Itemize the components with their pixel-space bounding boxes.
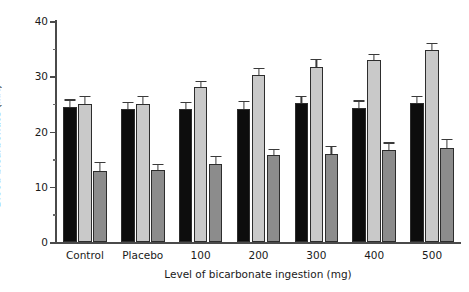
bar-light-gray-series bbox=[194, 87, 208, 242]
plot-area bbox=[56, 21, 461, 242]
bar-column bbox=[93, 21, 107, 242]
error-bar-cap bbox=[354, 100, 365, 101]
x-tick-label: 400 bbox=[364, 249, 384, 261]
bar-column bbox=[310, 21, 324, 242]
x-tick-label: 200 bbox=[248, 249, 268, 261]
bar-column bbox=[382, 21, 396, 242]
bar-column bbox=[63, 21, 77, 242]
error-bar-stem bbox=[200, 82, 201, 88]
y-tick-label: 10 bbox=[35, 181, 48, 193]
y-tick-label: 40 bbox=[35, 15, 48, 27]
error-bar-stem bbox=[431, 44, 432, 50]
bar-column bbox=[352, 21, 366, 242]
bar-column bbox=[237, 21, 251, 242]
bar-black-series bbox=[410, 103, 424, 242]
error-bar-stem bbox=[157, 165, 158, 170]
error-bar-cap bbox=[412, 96, 423, 97]
bar-column bbox=[410, 21, 424, 242]
error-bar-stem bbox=[243, 102, 244, 109]
error-bar-cap bbox=[210, 156, 221, 157]
error-bar-cap bbox=[238, 101, 249, 102]
error-bar-cap bbox=[94, 162, 105, 163]
error-bar-cap bbox=[137, 96, 148, 97]
bar-black-series bbox=[63, 107, 77, 242]
bar-medium-gray-series bbox=[209, 164, 223, 242]
bar-column bbox=[325, 21, 339, 242]
error-bar-cap bbox=[64, 99, 75, 100]
bar-medium-gray-series bbox=[382, 150, 396, 242]
bar-column bbox=[121, 21, 135, 242]
error-bar-stem bbox=[359, 102, 360, 108]
x-axis-line bbox=[55, 242, 461, 244]
error-bar-stem bbox=[127, 103, 128, 109]
error-bar-cap bbox=[369, 54, 380, 55]
bar-column bbox=[209, 21, 223, 242]
bar-black-series bbox=[352, 108, 366, 242]
bar-column bbox=[78, 21, 92, 242]
bar-group bbox=[295, 21, 339, 242]
x-tick-label: Control bbox=[66, 249, 104, 261]
x-tick-label: 300 bbox=[306, 249, 326, 261]
bar-black-series bbox=[237, 109, 251, 242]
error-bar-cap bbox=[268, 149, 279, 150]
bar-black-series bbox=[121, 109, 135, 242]
error-bar-cap bbox=[326, 146, 337, 147]
error-bar-cap bbox=[79, 96, 90, 97]
bar-column bbox=[367, 21, 381, 242]
bar-light-gray-series bbox=[367, 60, 381, 242]
bar-chart-figure: Blood bicarbonate (mM) 010203040 Control… bbox=[0, 0, 469, 292]
error-bar-cap bbox=[311, 59, 322, 60]
error-bar-stem bbox=[215, 157, 216, 164]
bar-column bbox=[440, 21, 454, 242]
bar-medium-gray-series bbox=[151, 170, 165, 242]
bar-column bbox=[179, 21, 193, 242]
y-axis-title: Blood bicarbonate (mM) bbox=[0, 85, 2, 208]
y-tick-label: 0 bbox=[41, 236, 48, 248]
bar-group bbox=[121, 21, 165, 242]
bar-medium-gray-series bbox=[267, 155, 281, 242]
y-tick-label: 20 bbox=[35, 126, 48, 138]
error-bar-stem bbox=[301, 97, 302, 103]
bar-medium-gray-series bbox=[93, 171, 107, 242]
bar-groups bbox=[56, 21, 461, 242]
bar-group bbox=[352, 21, 396, 242]
x-tick-label: 100 bbox=[191, 249, 211, 261]
bar-column bbox=[194, 21, 208, 242]
error-bar-stem bbox=[142, 97, 143, 104]
error-bar-stem bbox=[99, 163, 100, 171]
error-bar-stem bbox=[331, 147, 332, 154]
bar-column bbox=[252, 21, 266, 242]
bar-group bbox=[237, 21, 281, 242]
error-bar-cap bbox=[195, 81, 206, 82]
bar-group bbox=[410, 21, 454, 242]
x-axis-title: Level of bicarbonate ingestion (mg) bbox=[164, 268, 351, 280]
error-bar-cap bbox=[384, 142, 395, 143]
error-bar-cap bbox=[253, 68, 264, 69]
error-bar-cap bbox=[180, 102, 191, 103]
bar-light-gray-series bbox=[252, 75, 266, 242]
error-bar-stem bbox=[416, 97, 417, 103]
x-tick-label: Placebo bbox=[122, 249, 163, 261]
bar-light-gray-series bbox=[136, 104, 150, 242]
error-bar-stem bbox=[185, 103, 186, 109]
bar-column bbox=[267, 21, 281, 242]
bar-light-gray-series bbox=[310, 67, 324, 242]
bar-black-series bbox=[179, 109, 193, 242]
error-bar-stem bbox=[273, 150, 274, 155]
y-tick-label: 30 bbox=[35, 70, 48, 82]
error-bar-stem bbox=[446, 140, 447, 148]
error-bar-stem bbox=[374, 55, 375, 60]
bar-column bbox=[136, 21, 150, 242]
y-axis-title-unit: mM bbox=[0, 89, 2, 104]
error-bar-cap bbox=[296, 96, 307, 97]
y-axis-title-text-end: ) bbox=[0, 85, 2, 89]
bar-light-gray-series bbox=[425, 50, 439, 242]
error-bar-cap bbox=[152, 164, 163, 165]
x-tick-label: 500 bbox=[422, 249, 442, 261]
bar-light-gray-series bbox=[78, 104, 92, 242]
error-bar-cap bbox=[427, 43, 438, 44]
bar-group bbox=[63, 21, 107, 242]
error-bar-stem bbox=[258, 69, 259, 75]
bar-black-series bbox=[295, 103, 309, 242]
bar-medium-gray-series bbox=[440, 148, 454, 242]
